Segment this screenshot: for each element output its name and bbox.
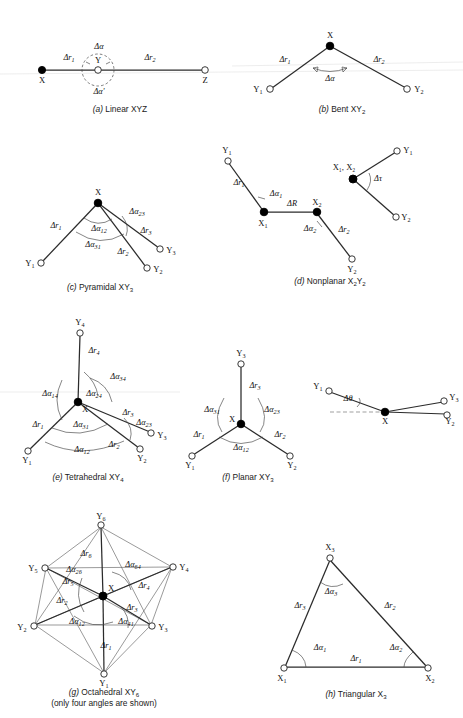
atom-y5 [42, 565, 48, 571]
coord-label-dr1: Δr1 [349, 654, 361, 664]
atom-label-x: X [95, 187, 102, 197]
oop-label-y3: Y3 [449, 392, 458, 403]
atom-label-x1: X1 [258, 218, 267, 229]
panel-c-pyramidal-xy3: X Y1 Y2 Y3 Δr1 Δr2 Δr3 Δα12 Δα23 Δα31 (c… [25, 187, 175, 293]
arc-tick-left [86, 62, 90, 64]
angle-arc-a3 [320, 582, 343, 587]
coord-label-dr2: Δr2 [372, 55, 384, 65]
bond-x-y1 [103, 596, 104, 673]
coord-label-da3: Δα3 [324, 587, 337, 597]
atom-x3 [327, 555, 333, 561]
out-of-plane-bending-diagram: Y1 X Y3 Y2 Δθ [313, 381, 458, 427]
coord-label-da2: Δα2 [303, 224, 316, 234]
angle-arc-a64 [112, 572, 131, 590]
coord-label-da1: Δα1 [313, 643, 326, 653]
coord-label-dr2: Δr2 [273, 430, 285, 440]
atom-label-y1: Y1 [185, 460, 194, 471]
panel-g-octahedral-xy6: Y6 Y5 Y4 Y2 Y3 Y1 X Δr6 Δr1 Δr2 Δr3 Δr4 … [17, 511, 188, 708]
newman-atom-y2 [393, 214, 399, 220]
atom-label-x: X [327, 30, 334, 40]
bond-y1-x1 [228, 162, 264, 212]
panel-f-caption: (f) Planar XY3 [222, 472, 274, 483]
atom-label-y1: Y1 [25, 258, 34, 269]
coord-label-dr1: Δr1 [49, 221, 61, 231]
coord-label-dR: ΔR [286, 199, 297, 208]
coord-label-da41: Δα41 [117, 617, 133, 627]
coord-label-dr1: Δr1 [232, 178, 244, 188]
coord-label-dr3: Δr3 [125, 603, 137, 613]
atom-label-y6: Y6 [96, 511, 105, 522]
atom-label-y5: Y5 [28, 563, 37, 574]
oop-label-y2: Y2 [445, 416, 454, 427]
panel-g-caption: (g) Octahedral XY6 [69, 687, 140, 698]
newman-atom-y1 [394, 148, 400, 154]
atom-label-y1: Y1 [222, 145, 231, 156]
atom-y3 [149, 623, 155, 629]
coord-label-dr2: Δr2 [107, 440, 119, 450]
coord-label-dr3: Δr3 [248, 381, 260, 391]
atom-x [326, 42, 334, 50]
newman-label-y1: Y1 [403, 145, 412, 156]
atom-x [94, 199, 102, 207]
coord-label-dr3: Δr3 [121, 408, 133, 418]
panel-c-caption: (c) Pyramidal XY3 [67, 282, 134, 293]
oop-label-y1: Y1 [313, 381, 322, 392]
coord-label-dr1: Δr1 [278, 55, 290, 65]
atom-label-y: Y [95, 55, 101, 65]
newman-bond-y2 [353, 179, 395, 216]
newman-projection: X₁, X₂ Y1 Y2 Δτ [333, 145, 413, 223]
edge-y5-y4 [46, 567, 172, 568]
angle-arc-a23 [258, 398, 265, 432]
angle-arc-a26 [78, 578, 84, 612]
coord-label-dr1: Δr1 [192, 430, 204, 440]
panel-g-caption-note: (only four angles are shown) [51, 698, 157, 708]
atom-y4 [77, 330, 83, 336]
bond-x3-x2 [330, 560, 427, 667]
atom-y3 [238, 361, 244, 367]
atom-label-y2: Y2 [17, 622, 26, 633]
atom-z [202, 67, 209, 74]
atom-y [95, 67, 102, 74]
coord-label-dr3: Δr3 [139, 226, 151, 236]
angle-arc-a23 [122, 216, 127, 236]
coord-label-da31: Δα31 [72, 420, 88, 430]
coord-label-da1: Δα1 [269, 189, 282, 199]
coord-label-da23: Δα23 [135, 418, 151, 428]
atom-label-x: X [229, 414, 236, 424]
angle-tick-a2 [317, 221, 322, 227]
atom-label-y2: Y2 [137, 453, 146, 464]
atom-label-y3: Y3 [157, 430, 166, 441]
coord-label-dr6: Δr6 [79, 549, 92, 559]
oop-atom-y3 [441, 398, 447, 404]
atom-label-y2: Y2 [153, 264, 162, 275]
coord-label-da23: Δα23 [263, 405, 279, 415]
angle-arc-a2 [404, 652, 413, 667]
coord-label-dr1: Δr1 [62, 53, 74, 63]
coord-label-da12: Δα12 [90, 224, 106, 234]
coord-label-da24: Δα24 [85, 389, 101, 399]
coord-label-da26: Δα26 [65, 565, 82, 575]
panel-d-nonplanar-x2y2: Y1 X1 X2 Y2 Δr1 Δr2 ΔR Δα1 Δα2 X₁, X₂ Y1… [222, 145, 412, 287]
angle-arc-a31 [217, 398, 224, 432]
atom-y4 [170, 564, 176, 570]
coord-label-da12: Δα12 [232, 443, 248, 453]
panel-b-caption: (b) Bent XY2 [319, 104, 366, 115]
atom-x1 [260, 208, 268, 216]
coord-label-dr1: Δr1 [31, 420, 43, 430]
atom-label-x3: X3 [325, 542, 334, 553]
atom-x [74, 398, 82, 406]
atom-label-x2: X2 [312, 197, 321, 208]
atom-y3 [157, 246, 163, 252]
panel-e-caption: (e) Tetrahedral XY4 [52, 472, 124, 483]
atom-y2 [349, 256, 355, 262]
coord-label-da12: Δα12 [68, 617, 84, 627]
atom-y2 [404, 86, 411, 93]
coord-label-dalpha-prime: Δα' [92, 87, 104, 96]
bond-x-y1 [272, 46, 330, 88]
coord-label-dalpha: Δα [324, 74, 335, 83]
coord-label-dr1: Δr1 [99, 641, 111, 651]
atom-label-x2: X2 [425, 673, 434, 684]
atom-label-y3: Y3 [166, 245, 175, 256]
panel-d-caption: (d) Nonplanar X2Y2 [294, 276, 366, 287]
angle-tick-a1 [258, 197, 265, 199]
